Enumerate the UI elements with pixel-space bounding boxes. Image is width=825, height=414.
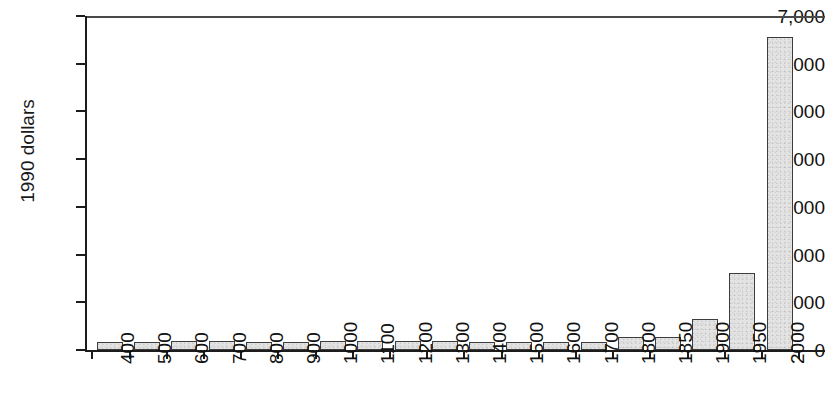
y-tick-mark: [76, 349, 85, 351]
x-tick-label: 1400: [490, 304, 509, 364]
y-tick-mark: [76, 301, 85, 303]
x-tick-label: 1850: [676, 304, 695, 364]
y-tick-mark: [76, 158, 85, 160]
y-tick-mark: [76, 15, 85, 17]
x-tick-label: 1900: [713, 304, 732, 364]
x-tick-label: 400: [118, 304, 137, 364]
x-tick-label: 900: [304, 304, 323, 364]
x-tick-label: 1500: [527, 304, 546, 364]
y-tick-mark: [76, 63, 85, 65]
x-tick-label: 700: [230, 304, 249, 364]
x-tick-label: 1800: [639, 304, 658, 364]
x-tick-label: 2000: [788, 304, 807, 364]
x-tick-label: 1000: [341, 304, 360, 364]
x-tick-label: 1200: [416, 304, 435, 364]
y-tick-mark: [76, 206, 85, 208]
y-tick-mark: [76, 254, 85, 256]
x-tick-label: 1100: [378, 304, 397, 364]
x-tick-mark: [91, 350, 93, 359]
x-tick-label: 1950: [750, 304, 769, 364]
x-tick-label: 800: [267, 304, 286, 364]
x-tick-label: 1700: [602, 304, 621, 364]
bar-chart-figure: 1990 dollars 01,0002,0003,0004,0005,0006…: [0, 0, 825, 414]
x-tick-label: 500: [155, 304, 174, 364]
y-axis-title: 1990 dollars: [17, 71, 39, 231]
x-tick-label: 1600: [564, 304, 583, 364]
plot-area: [85, 16, 825, 350]
x-tick-label: 600: [192, 304, 211, 364]
y-tick-mark: [76, 110, 85, 112]
x-tick-label: 1300: [453, 304, 472, 364]
